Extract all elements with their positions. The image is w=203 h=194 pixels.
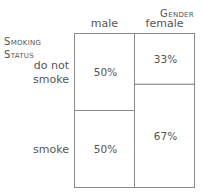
row-variable-title-line: Status (4, 49, 34, 60)
mosaic-plot: Gender SmokingStatus malefemale do notsm… (0, 0, 203, 194)
cell-label-male-do-not-smoke: 50% (94, 66, 117, 78)
cell-label-male-smoke: 50% (94, 143, 117, 155)
column-labels: malefemale (91, 17, 184, 30)
row-variable-title-line: Smoking (4, 36, 41, 47)
row-variable-title: SmokingStatus (4, 36, 41, 60)
column-label-male: male (91, 17, 119, 30)
row-label-smoke: smoke (33, 143, 69, 156)
cell-label-female-smoke: 67% (154, 130, 177, 142)
row-labels: do notsmokesmoke (33, 59, 70, 156)
row-label-do-not-smoke: do notsmoke (33, 59, 70, 86)
cell-label-female-do-not-smoke: 33% (154, 53, 177, 65)
column-label-female: female (146, 17, 184, 30)
